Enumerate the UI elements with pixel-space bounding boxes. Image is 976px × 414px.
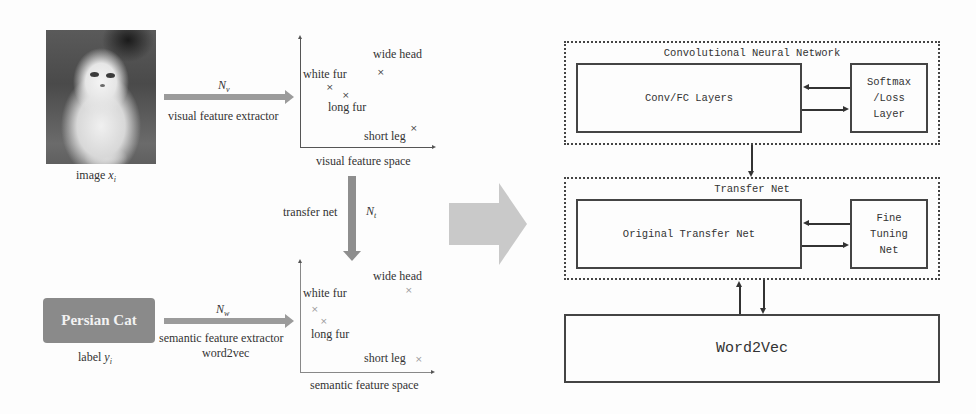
cat-eye-right [106, 73, 115, 78]
nt-sub: t [374, 211, 376, 220]
word2vec-block: Word2Vec [564, 314, 940, 383]
visual-point-label-long-fur: long fur [328, 100, 366, 115]
image-caption-sub: i [114, 175, 116, 184]
label-caption-sub: i [110, 357, 112, 366]
transfer-net-title: Transfer Net [564, 183, 940, 195]
semantic-point-label-white-fur: white fur [303, 286, 347, 301]
finetune-to-original-arrow [808, 223, 850, 225]
semantic-extractor-symbol: Nw [216, 302, 229, 318]
semantic-point-label-short-leg: short leg [364, 351, 406, 366]
cnn-title: Convolutional Neural Network [564, 47, 940, 59]
conv-fc-layers-label: Conv/FC Layers [645, 90, 733, 106]
conv-to-softmax-arrow [802, 109, 844, 111]
fine-tuning-net-label: Fine Tuning Net [870, 210, 908, 258]
semantic-point-label-long-fur: long fur [311, 327, 349, 342]
cat-photo [46, 30, 156, 164]
visual-plot-y-axis [300, 39, 301, 147]
word2vec-to-transfer-arrow [739, 286, 741, 314]
visual-point-long-fur: × [342, 91, 350, 100]
nv-symbol: N [218, 78, 226, 92]
visual-plot-x-axis [300, 147, 432, 148]
transfer-to-word2vec-arrow [763, 280, 765, 309]
softmax-to-conv-arrow [808, 87, 850, 89]
persian-cat-label-box: Persian Cat [43, 298, 155, 343]
transfer-net-symbol: Nt [366, 204, 376, 220]
visual-plot-title: visual feature space [316, 154, 411, 169]
semantic-extractor-arrow [164, 318, 286, 324]
semantic-point-white-fur: × [311, 305, 319, 314]
conv-fc-layers-block: Conv/FC Layers [576, 63, 802, 133]
cat-eye-left [90, 72, 99, 77]
label-caption-text: label [78, 350, 104, 364]
cat-nose [100, 84, 105, 87]
visual-point-label-wide-head: wide head [373, 47, 422, 62]
nt-symbol: N [366, 204, 374, 218]
visual-point-short-leg: × [410, 124, 418, 133]
semantic-extractor-sublabel: word2vec [202, 346, 249, 361]
semantic-point-wide-head: × [405, 286, 413, 295]
original-transfer-net-label: Original Transfer Net [623, 226, 755, 242]
semantic-point-label-wide-head: wide head [373, 269, 422, 284]
semantic-plot-x-axis [300, 372, 431, 373]
visual-extractor-symbol: Nv [218, 78, 230, 94]
original-transfer-net-block: Original Transfer Net [576, 199, 802, 269]
transfer-net-arrow [348, 176, 356, 252]
image-caption: image xi [76, 168, 116, 184]
transfer-net-label: transfer net [283, 205, 337, 220]
cnn-to-transfer-arrow [751, 145, 753, 172]
big-arrow-icon-head [499, 183, 527, 265]
visual-extractor-arrow [164, 94, 286, 100]
visual-extractor-label: visual feature extractor [168, 109, 279, 124]
visual-point-wide-head: × [377, 68, 385, 77]
fine-tuning-net-block: Fine Tuning Net [850, 199, 928, 269]
image-caption-text: image [76, 168, 108, 182]
semantic-point-short-leg: × [415, 355, 423, 364]
visual-point-label-short-leg: short leg [364, 129, 406, 144]
label-caption: label yi [78, 350, 112, 366]
semantic-plot-y-axis [300, 263, 301, 372]
semantic-point-long-fur: × [320, 317, 328, 326]
semantic-plot-title: semantic feature space [310, 378, 419, 393]
softmax-loss-label: Softmax /Loss Layer [867, 74, 911, 122]
semantic-extractor-label: semantic feature extractor [159, 331, 284, 346]
softmax-loss-block: Softmax /Loss Layer [850, 63, 928, 133]
visual-point-white-fur: × [326, 83, 334, 92]
big-arrow-icon-body [449, 203, 499, 245]
word2vec-label: Word2Vec [716, 340, 788, 357]
visual-point-label-white-fur: white fur [303, 67, 347, 82]
original-to-finetune-arrow [802, 245, 844, 247]
nw-symbol: N [216, 302, 224, 316]
